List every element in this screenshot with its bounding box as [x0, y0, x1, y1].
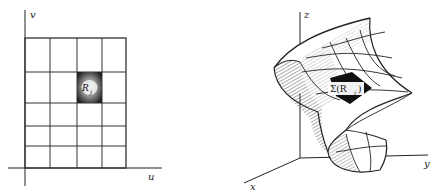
highlighted-cell: R j	[77, 72, 102, 103]
x-axis-label: x	[250, 181, 256, 192]
y-axis-label: y	[423, 158, 430, 169]
surface: Σ(R j )	[274, 18, 412, 172]
x-axis	[244, 158, 300, 183]
z-axis-label: z	[303, 9, 310, 20]
figure-canvas: v u R j z y x	[0, 0, 434, 195]
cell-label: R	[81, 83, 89, 93]
svg-text:Σ(R: Σ(R	[330, 84, 347, 94]
svg-text:): )	[358, 84, 362, 94]
v-axis-label: v	[30, 9, 36, 20]
grid	[25, 38, 126, 168]
u-axis-label: u	[148, 171, 154, 182]
uv-domain-diagram: v u R j	[8, 9, 162, 186]
surface-diagram: z y x	[244, 9, 430, 192]
